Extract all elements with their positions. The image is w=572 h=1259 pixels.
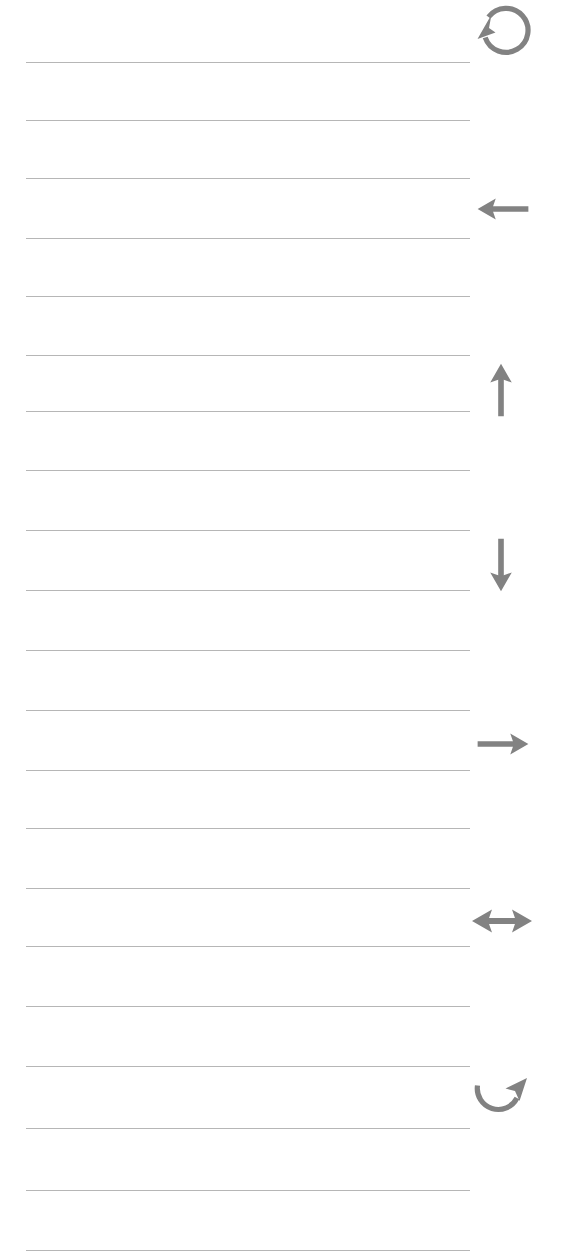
ruled-line: [26, 470, 470, 471]
ruled-line: [26, 355, 470, 356]
arrow-down-icon-glyph: [484, 535, 518, 595]
ruled-line: [26, 411, 470, 412]
ruled-line: [26, 946, 470, 947]
arrow-right-icon-glyph: [474, 727, 532, 761]
ruled-line: [26, 1006, 470, 1007]
ruled-line: [26, 770, 470, 771]
ruled-line: [26, 828, 470, 829]
arrow-left-icon-glyph: [474, 192, 532, 226]
arrow-up-icon[interactable]: [484, 360, 518, 420]
ruled-line: [26, 1190, 470, 1191]
ruled-line: [26, 650, 470, 651]
arrow-left-right-icon[interactable]: [470, 904, 534, 938]
rotate-clockwise-icon-glyph: [470, 1076, 532, 1128]
arrow-up-icon-glyph: [484, 360, 518, 420]
ruled-line: [26, 710, 470, 711]
arrow-left-right-icon-glyph: [470, 904, 534, 938]
ruled-line: [26, 590, 470, 591]
ruled-line: [26, 62, 470, 63]
ruled-line: [26, 296, 470, 297]
ruled-line: [26, 178, 470, 179]
ruled-line: [26, 238, 470, 239]
ruled-line: [26, 1250, 470, 1251]
ruled-line: [26, 1066, 470, 1067]
arrow-right-icon[interactable]: [474, 727, 532, 761]
ruled-line: [26, 120, 470, 121]
rotate-counterclockwise-icon[interactable]: [471, 2, 532, 63]
arrow-left-icon[interactable]: [474, 192, 532, 226]
ruled-line: [26, 1128, 470, 1129]
ruled-line: [26, 888, 470, 889]
ruled-page: [0, 0, 572, 1259]
arrow-down-icon[interactable]: [484, 535, 518, 595]
ruled-line: [26, 530, 470, 531]
rotate-clockwise-icon[interactable]: [470, 1076, 532, 1128]
rotate-counterclockwise-icon-glyph: [471, 2, 532, 63]
